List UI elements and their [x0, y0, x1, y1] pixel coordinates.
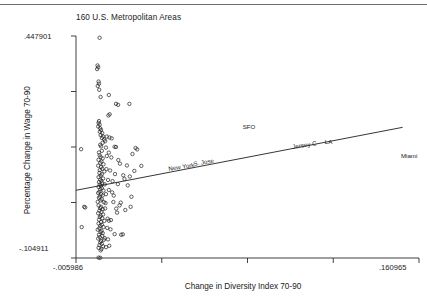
scatter-point — [115, 211, 118, 214]
scatter-point — [84, 206, 87, 209]
scatter-point — [106, 238, 109, 241]
scatter-point — [113, 232, 116, 235]
scatter-point — [140, 164, 143, 167]
scatter-point — [112, 200, 115, 203]
scatter-point — [108, 169, 111, 172]
x-axis-ticks — [76, 258, 419, 263]
scatter-point — [126, 184, 129, 187]
scatter-point — [128, 175, 131, 178]
scatter-point — [110, 191, 113, 194]
x-axis-tick-label-min: -.005986 — [53, 264, 83, 272]
y-axis-tick-label-max: .447901 — [24, 33, 51, 41]
scatter-point — [124, 208, 127, 211]
chart-title: 160 U.S. Metropolitan Areas — [76, 14, 181, 22]
scatter-plot-canvas — [0, 0, 427, 299]
scatter-point — [111, 179, 114, 182]
scatter-point — [109, 218, 112, 221]
chart-figure: 160 U.S. Metropolitan Areas .447901 -.10… — [0, 0, 427, 299]
scatter-point — [104, 192, 107, 195]
scatter-point — [122, 174, 125, 177]
scatter-point — [130, 195, 133, 198]
scatter-point — [105, 167, 108, 170]
scatter-point — [99, 95, 102, 98]
scatter-point — [115, 207, 118, 210]
y-axis-tick-label-min: -.104911 — [19, 245, 48, 253]
y-axis-ticks — [71, 36, 76, 258]
scatter-point — [110, 137, 113, 140]
scatter-point — [117, 158, 120, 161]
scatter-point — [114, 102, 117, 105]
scatter-point — [116, 103, 119, 106]
x-axis-tick-label-max: .160965 — [379, 264, 406, 272]
scatter-point — [79, 148, 82, 151]
scatter-point — [103, 219, 106, 222]
point-label: SFO — [243, 124, 256, 130]
scatter-points-layer — [79, 36, 143, 259]
scatter-point — [107, 188, 110, 191]
scatter-point — [112, 194, 115, 197]
scatter-point — [96, 200, 99, 203]
scatter-point — [106, 178, 109, 181]
scatter-point — [125, 164, 128, 167]
scatter-point — [123, 177, 126, 180]
y-axis-title: Percentage Change in Wage 70-90 — [24, 60, 32, 240]
scatter-point — [106, 226, 109, 229]
scatter-point — [97, 88, 100, 91]
regression-fit-line — [76, 127, 403, 190]
scatter-point — [133, 169, 136, 172]
scatter-point — [102, 163, 105, 166]
scatter-point — [107, 151, 110, 154]
scatter-point — [110, 156, 113, 159]
scatter-point — [113, 172, 116, 175]
scatter-point — [107, 93, 110, 96]
scatter-point — [128, 102, 131, 105]
x-axis-title: Change in Diversity Index 70-90 — [113, 283, 373, 291]
scatter-point — [118, 162, 121, 165]
point-label: Miami — [401, 153, 418, 159]
axis-lines — [76, 36, 419, 258]
scatter-point — [108, 244, 111, 247]
scatter-point — [116, 182, 119, 185]
scatter-point — [129, 205, 132, 208]
point-label: LA — [325, 139, 333, 145]
scatter-point — [109, 228, 112, 231]
scatter-point — [80, 225, 83, 228]
scatter-point — [131, 152, 134, 155]
scatter-point — [98, 36, 101, 39]
scatter-point — [105, 154, 108, 157]
scatter-point — [104, 146, 107, 149]
